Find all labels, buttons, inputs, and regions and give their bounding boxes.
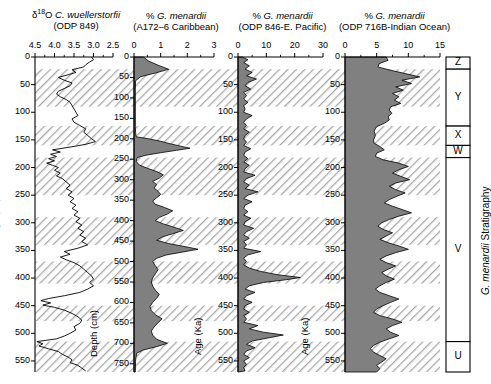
panel-odp716b-y-tick-label: 300	[312, 217, 340, 227]
panel-a172-6-y-tick-label: 200	[101, 133, 129, 143]
panel-odp716b-y-tick-label: 400	[312, 272, 340, 282]
panel-odp846-y-tick-label: 50	[205, 79, 233, 89]
panel-odp846-y-tick-label: 0	[205, 51, 233, 61]
panel-odp846-y-tick-label: 550	[205, 355, 233, 365]
panel-odp716b-y-tick-label: 450	[312, 300, 340, 310]
panel-odp849-y-tick-label: 100	[2, 106, 30, 116]
panel-odp716b-y-tick-label: 0	[312, 51, 340, 61]
panel-a172-6-y-tick-label: 350	[101, 194, 129, 204]
panel-a172-6-y-tick-label: 250	[101, 153, 129, 163]
panel-a172-6-y-tick-label: 450	[101, 235, 129, 245]
panel-a172-6-x-tick-label: 1	[150, 40, 172, 50]
panel-odp846-y-tick-label: 350	[205, 244, 233, 254]
panel-a172-6-y-tick-label: 400	[101, 215, 129, 225]
panel-odp849-y-tick-label: 150	[2, 134, 30, 144]
panel-odp849-y-tick-label: 200	[2, 162, 30, 172]
stratigraphy-title: G. menardii Stratigraphy	[480, 187, 491, 295]
panel-odp849-y-tick-label: 0	[2, 51, 30, 61]
panel-odp846-y-tick-label: 400	[205, 272, 233, 282]
panel-odp846-x-tick-label: 20	[284, 40, 306, 50]
panel-odp716b-y-tick-label: 550	[312, 355, 340, 365]
panel-odp846-y-tick-label: 300	[205, 217, 233, 227]
panel-odp716b-title-line1: % G. menardii	[311, 10, 478, 21]
panel-odp846-y-tick-label: 450	[205, 300, 233, 310]
panel-odp846-y-tick-label: 500	[205, 327, 233, 337]
panel-a172-6-x-tick-label: 3	[203, 40, 225, 50]
panel-odp846-x-tick-label: 10	[255, 40, 277, 50]
panel-odp849-y-tick-label: 250	[2, 189, 30, 199]
panel-odp716b-y-axis-title: Age (Ka)	[299, 318, 310, 356]
panel-odp716b-x-tick-label: 0	[334, 40, 356, 50]
panel-odp716b-x-tick-label: 15	[429, 40, 451, 50]
panel-a172-6-y-tick-label: 0	[101, 51, 129, 61]
panel-odp849-y-tick-label: 500	[2, 327, 30, 337]
panel-odp849-y-tick-label: 450	[2, 300, 30, 310]
panel-odp849-y-tick-label: 400	[2, 272, 30, 282]
panel-odp849-x-tick-label: 2.5	[102, 40, 124, 50]
panel-odp716b-y-tick-label: 100	[312, 106, 340, 116]
panel-odp846-y-axis-title: Age (Ka)	[192, 318, 203, 356]
panel-a172-6-y-tick-label: 300	[101, 174, 129, 184]
panel-a172-6-y-tick-label: 750	[101, 358, 129, 368]
stratigraphy-zone-label: Z	[446, 56, 470, 67]
panel-odp849-y-tick-label: 550	[2, 355, 30, 365]
panel-odp716b-x-tick-label: 5	[366, 40, 388, 50]
panel-a172-6-y-tick-label: 500	[101, 256, 129, 266]
panel-odp716b-y-tick-label: 50	[312, 79, 340, 89]
panel-a172-6-y-axis-title: Depth (cm)	[88, 310, 99, 357]
panel-odp716b-title-line2: (ODP 716B-Indian Ocean)	[311, 21, 478, 32]
panel-odp716b-header: % G. menardii(ODP 716B-Indian Ocean)	[311, 10, 478, 32]
panel-a172-6-y-tick-label: 600	[101, 296, 129, 306]
panel-odp849-y-tick-label: 300	[2, 217, 30, 227]
panel-odp716b-y-tick-label: 500	[312, 327, 340, 337]
panel-odp846-x-tick-label: 30	[312, 40, 334, 50]
panel-odp846-y-tick-label: 200	[205, 162, 233, 172]
panel-a172-6-x-tick-label: 0	[123, 40, 145, 50]
panel-a172-6-y-tick-label: 150	[101, 112, 129, 122]
panel-a172-6-y-tick-label: 100	[101, 92, 129, 102]
stratigraphy-zone-label: V	[446, 243, 470, 254]
stratigraphy-column	[446, 57, 470, 372]
stratigraphy-zone-label: Y	[446, 91, 470, 102]
panel-a172-6-y-tick-label: 700	[101, 337, 129, 347]
panel-a172-6-x-tick-label: 2	[176, 40, 198, 50]
panel-odp846-x-tick-label: 0	[227, 40, 249, 50]
panel-odp716b-y-tick-label: 250	[312, 189, 340, 199]
stratigraphy-zone-label: W	[446, 145, 470, 156]
panel-a172-6-y-tick-label: 550	[101, 276, 129, 286]
panel-odp716b-y-tick-label: 350	[312, 244, 340, 254]
panel-odp846-y-tick-label: 250	[205, 189, 233, 199]
panel-odp846-y-tick-label: 100	[205, 106, 233, 116]
panel-a172-6-y-tick-label: 50	[101, 71, 129, 81]
panel-odp849-y-tick-label: 50	[2, 79, 30, 89]
panel-odp846-y-tick-label: 150	[205, 134, 233, 144]
panel-odp716b-y-tick-label: 200	[312, 162, 340, 172]
panel-odp716b-x-tick-label: 10	[397, 40, 419, 50]
stratigraphy-zone-label: X	[446, 129, 470, 140]
panel-odp716b-y-tick-label: 150	[312, 134, 340, 144]
stratigraphy-zone-label: U	[446, 350, 470, 361]
panel-a172-6-y-tick-label: 650	[101, 317, 129, 327]
panel-odp849-y-tick-label: 350	[2, 244, 30, 254]
